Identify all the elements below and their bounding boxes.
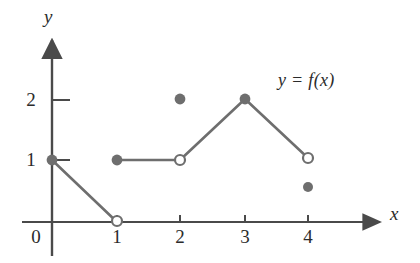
x-tick-label-1: 1	[108, 226, 126, 248]
segment-2-to-3	[180, 99, 245, 160]
function-graph-figure: y x 0 1 2 3 4 1 2 y = f(x)	[0, 0, 420, 263]
y-tick-label-2: 2	[22, 89, 40, 111]
origin-tick-label: 0	[27, 226, 45, 248]
marker-filled-0-1	[47, 155, 58, 166]
x-axis-label: x	[390, 203, 398, 225]
marker-open-1-0	[112, 216, 122, 226]
marker-filled-1-1	[112, 155, 123, 166]
marker-filled-point-4-low	[303, 182, 313, 192]
marker-open-4-1	[303, 153, 313, 163]
marker-open-2-1	[175, 155, 185, 165]
x-tick-label-4: 4	[299, 226, 317, 248]
y-axis-label: y	[44, 6, 52, 28]
y-tick-label-1: 1	[22, 149, 40, 171]
x-tick-label-3: 3	[236, 226, 254, 248]
segment-0-to-1	[52, 160, 117, 222]
x-tick-label-2: 2	[171, 226, 189, 248]
marker-filled-3-2	[240, 94, 251, 105]
segment-3-to-4	[245, 99, 308, 158]
plot-canvas	[0, 0, 420, 263]
marker-filled-point-2-2	[175, 94, 186, 105]
curve-equation-label: y = f(x)	[278, 70, 335, 91]
